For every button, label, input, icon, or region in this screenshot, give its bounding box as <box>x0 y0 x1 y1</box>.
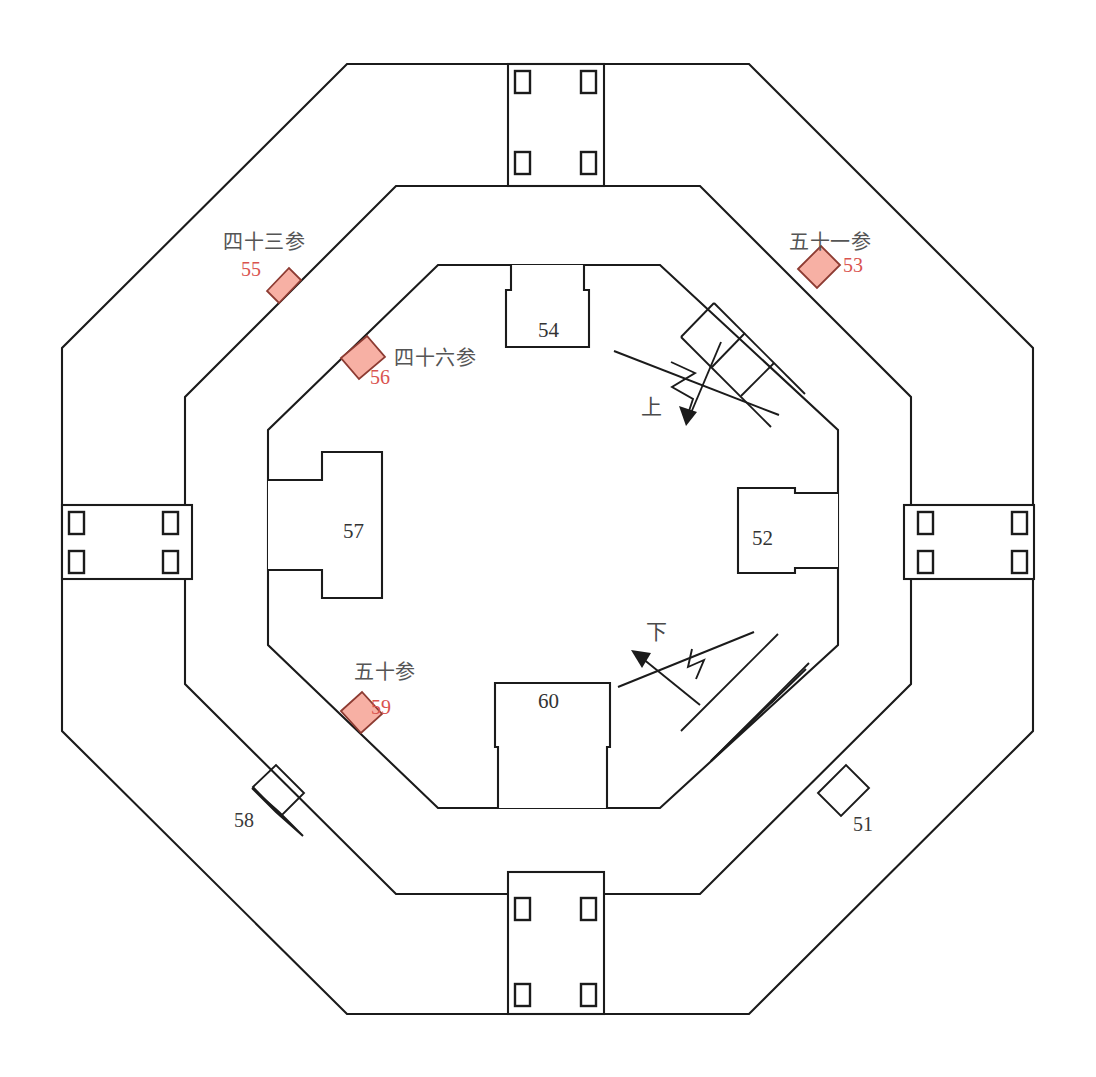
gate-west-pillar-se <box>163 551 178 573</box>
gate-west-pillar-sw <box>69 551 84 573</box>
marker-51-label: 51 <box>853 814 873 834</box>
marker-56-number-label: 56 <box>370 367 390 387</box>
gate-north-pillar-se <box>581 152 596 174</box>
marker-55-chinese-label: 四十三参 <box>223 232 305 252</box>
marker-58-outline <box>253 765 304 816</box>
gate-west-pillar-nw <box>69 512 84 534</box>
room-54-label: 54 <box>538 320 559 341</box>
marker-55-number-label: 55 <box>241 259 261 279</box>
gate-west-pillar-ne <box>163 512 178 534</box>
stair-down-label: 下 <box>646 622 667 643</box>
gate-east <box>904 505 1034 579</box>
stair-down-arrow-line <box>637 654 700 705</box>
marker-53-chinese-label: 五十一参 <box>789 232 871 252</box>
gate-north-pillar-ne <box>581 71 596 93</box>
gate-south-pillar-se <box>581 984 596 1006</box>
room-60-label: 60 <box>538 691 559 712</box>
stair-up-label: 上 <box>641 397 662 418</box>
gate-north-pillar-sw <box>515 152 530 174</box>
gate-south <box>508 872 604 1014</box>
marker-53-number-label: 53 <box>843 255 863 275</box>
gate-north-pillar-nw <box>515 71 530 93</box>
marker-56-chinese-label: 四十六参 <box>394 348 476 368</box>
gate-east-pillar-sw <box>918 551 933 573</box>
marker-55-shape <box>267 268 301 303</box>
marker-59-chinese-label: 五十参 <box>354 662 416 682</box>
marker-51-outline <box>818 765 869 816</box>
stair-up-stringer-outer <box>714 303 805 394</box>
floor-plan-drawing <box>0 0 1096 1077</box>
room-57-shape <box>268 452 382 598</box>
gate-north <box>508 64 604 186</box>
stair-up-tread-1 <box>681 303 714 337</box>
floor-plan-canvas: 54 57 52 60 四十三参 55 五十一参 53 四十六参 56 五十参 … <box>0 0 1096 1077</box>
gate-east-pillar-nw <box>918 512 933 534</box>
room-52-label: 52 <box>752 528 773 549</box>
gate-west <box>62 505 192 579</box>
gate-east-pillar-se <box>1012 551 1027 573</box>
gate-south-pillar-ne <box>581 898 596 920</box>
marker-59-number-label: 59 <box>371 697 391 717</box>
gate-east-pillar-ne <box>1012 512 1027 534</box>
stair-up-tread-3 <box>741 363 774 396</box>
stair-down-arrow-head <box>631 650 651 668</box>
stair-up-arrow-head <box>679 406 697 426</box>
marker-58-label: 58 <box>234 810 254 830</box>
room-57-label: 57 <box>343 521 364 542</box>
stair-down-stringer-inner <box>681 634 778 731</box>
stair-down-stringer-outer <box>711 663 809 761</box>
stair-down-tread-3 <box>771 669 806 703</box>
gate-south-pillar-sw <box>515 984 530 1006</box>
gate-south-pillar-nw <box>515 898 530 920</box>
